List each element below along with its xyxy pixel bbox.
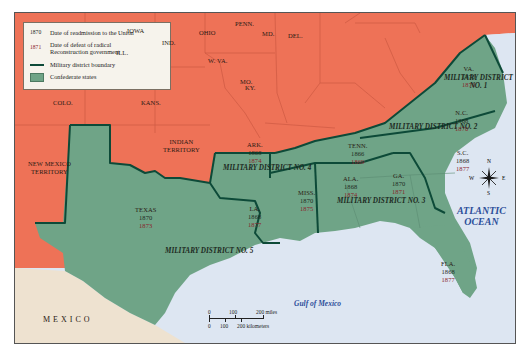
label-indian-territory: INDIAN TERRITORY bbox=[163, 138, 200, 154]
label-missouri: MO. bbox=[240, 78, 252, 86]
label-louisiana: LA. 1868 1877 bbox=[248, 205, 261, 229]
map-scale: 0 100 200 miles 0 100 200 kilometers bbox=[207, 309, 287, 339]
label-military-district-4: MILITARY DISTRICT NO. 4 bbox=[223, 164, 311, 172]
legend-readmission: 1870 Date of readmission to the Union bbox=[30, 29, 134, 36]
confederate-swatch bbox=[30, 73, 44, 82]
map-legend: 1870 Date of readmission to the Union 18… bbox=[23, 22, 171, 90]
label-gulf-of-mexico: Gulf of Mexico bbox=[294, 299, 341, 308]
label-military-district-5: MILITARY DISTRICT NO. 5 bbox=[165, 247, 253, 255]
label-south-carolina: S.C. 1868 1877 bbox=[456, 149, 469, 173]
label-military-district-2: MILITARY DISTRICT NO. 2 bbox=[389, 123, 477, 131]
map-frame: 1870 Date of readmission to the Union 18… bbox=[14, 12, 516, 344]
label-new-mexico-territory: NEW MEXICO TERRITORY bbox=[28, 160, 71, 176]
label-texas: TEXAS 1870 1873 bbox=[135, 206, 156, 230]
label-atlantic-ocean: ATLANTIC OCEAN bbox=[457, 205, 506, 227]
label-ohio: OHIO bbox=[199, 29, 216, 37]
label-georgia: GA. 1870 1871 bbox=[392, 172, 405, 196]
label-tennessee: TENN. 1866 1869 bbox=[348, 142, 367, 166]
compass-rose-icon: N S E W bbox=[476, 163, 502, 193]
scale-bar bbox=[209, 318, 263, 319]
boundary-line-swatch bbox=[30, 64, 44, 66]
label-florida: FLA. 1868 1877 bbox=[441, 260, 455, 284]
label-west-virginia: W. VA. bbox=[208, 57, 227, 65]
label-delaware: DEL. bbox=[288, 32, 303, 40]
label-colorado: COLO. bbox=[53, 99, 73, 107]
legend-defeat: 1871 Date of defeat of radical Reconstru… bbox=[30, 41, 120, 55]
legend-confederate: Confederate states bbox=[30, 73, 96, 82]
label-mississippi: MISS. 1870 1875 bbox=[298, 189, 315, 213]
label-maryland: MD. bbox=[262, 30, 274, 38]
label-indiana: IND. bbox=[162, 39, 176, 47]
label-iowa: IOWA bbox=[127, 27, 144, 35]
label-alabama: ALA. 1868 1874 bbox=[343, 175, 358, 199]
legend-boundary: Military district boundary bbox=[30, 61, 115, 68]
label-illinois: ILL. bbox=[116, 49, 128, 57]
label-arkansas: ARK. 1868 1874 bbox=[247, 141, 263, 165]
label-mexico: MEXICO bbox=[43, 315, 93, 324]
label-military-district-3: MILITARY DISTRICT NO. 3 bbox=[337, 197, 425, 205]
label-kansas: KANS. bbox=[141, 99, 161, 107]
label-pennsylvania: PENN. bbox=[235, 20, 254, 28]
label-military-district-1: MILITARY DISTRICT NO. 1 bbox=[444, 74, 513, 90]
